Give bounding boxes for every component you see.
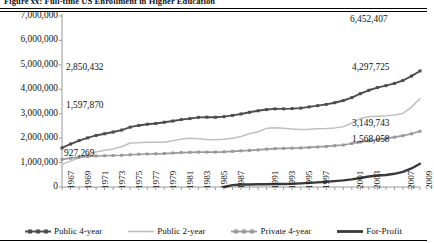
plot-area: [0, 12, 427, 190]
series-marker: [129, 126, 132, 129]
x-axis-tick-label: 2007: [406, 171, 416, 189]
series-marker: [137, 153, 140, 156]
series-marker: [154, 152, 157, 155]
x-axis-tick-label: 1981: [185, 171, 195, 189]
series-marker: [333, 144, 336, 147]
series-marker: [419, 69, 422, 72]
series-marker: [180, 118, 183, 121]
x-axis-tick-label: 1977: [151, 171, 161, 189]
legend-item-for-profit[interactable]: For-Profit: [337, 226, 402, 236]
series-marker: [342, 99, 345, 102]
series-marker: [188, 117, 191, 120]
series-marker: [231, 114, 234, 117]
series-marker: [393, 136, 396, 139]
legend-item-private-4-year[interactable]: Private 4-year: [231, 226, 311, 236]
legend-label: For-Profit: [366, 226, 402, 236]
series-marker: [359, 92, 362, 95]
series-marker: [137, 124, 140, 127]
line-chart-svg: [0, 12, 427, 190]
legend-item-public-2-year[interactable]: Public 2-year: [128, 226, 205, 236]
series-marker: [231, 150, 234, 153]
y-axis-tick-label: 1,000,000: [0, 157, 58, 167]
series-marker: [103, 154, 106, 157]
series-marker: [342, 143, 345, 146]
y-axis-tick-label: 6,000,000: [0, 34, 58, 44]
series-marker: [291, 107, 294, 110]
series-marker: [316, 104, 319, 107]
series-marker: [240, 149, 243, 152]
series-marker: [308, 105, 311, 108]
series-marker: [86, 136, 89, 139]
series-marker: [299, 107, 302, 110]
data-label-public-2-year: 927,269: [64, 148, 94, 158]
series-marker: [410, 132, 413, 135]
series-marker: [376, 86, 379, 89]
legend-label: Private 4-year: [260, 226, 311, 236]
series-marker: [95, 134, 98, 137]
series-marker: [393, 82, 396, 85]
series-marker: [61, 158, 64, 161]
x-axis-tick-label: 1993: [287, 171, 297, 189]
data-label-private-4-year: 3,149,743: [352, 118, 390, 128]
series-marker: [265, 108, 268, 111]
series-marker: [384, 84, 387, 87]
series-marker: [197, 151, 200, 154]
legend-item-public-4-year[interactable]: Public 4-year: [25, 226, 102, 236]
series-marker: [222, 150, 225, 153]
x-axis-tick-label: 1987: [236, 171, 246, 189]
x-axis-labels: 1967196919711973197519771979198119831985…: [0, 188, 427, 222]
legend-swatch: [25, 227, 51, 236]
series-marker: [282, 147, 285, 150]
series-marker: [163, 152, 166, 155]
series-marker: [265, 148, 268, 151]
series-marker: [103, 132, 106, 135]
series-marker: [180, 151, 183, 154]
x-axis-tick-label: 1967: [66, 171, 76, 189]
series-marker: [274, 107, 277, 110]
x-axis-tick-label: 1985: [219, 171, 229, 189]
legend-swatch: [231, 227, 257, 236]
series-marker: [171, 120, 174, 123]
series-marker: [325, 145, 328, 148]
series-marker: [401, 134, 404, 137]
x-axis-tick-label: 1997: [321, 171, 331, 189]
series-marker: [197, 116, 200, 119]
series-marker: [316, 145, 319, 148]
series-marker: [95, 154, 98, 157]
series-marker: [154, 122, 157, 125]
series-marker: [78, 139, 81, 142]
y-axis-tick-label: 5,000,000: [0, 59, 58, 69]
series-marker: [214, 116, 217, 119]
series-marker: [299, 146, 302, 149]
legend-swatch: [128, 227, 154, 236]
series-marker: [257, 109, 260, 112]
y-axis-tick-label: 4,000,000: [0, 83, 58, 93]
data-label-public-4-year: 6,452,407: [350, 14, 388, 24]
x-axis-tick-label: 2003: [372, 171, 382, 189]
series-marker: [333, 101, 336, 104]
series-marker: [257, 148, 260, 151]
y-axis-tick-label: 7,000,000: [0, 10, 58, 20]
chart-legend: Public 4-yearPublic 2-yearPrivate 4-year…: [0, 224, 427, 238]
data-label-public-4-year: 1,597,870: [66, 100, 104, 110]
x-axis-tick-label: 1991: [270, 171, 280, 189]
figure-bottom-rule: [0, 240, 427, 241]
series-marker: [401, 79, 404, 82]
series-marker: [205, 116, 208, 119]
legend-label: Public 2-year: [157, 226, 205, 236]
series-marker: [214, 151, 217, 154]
x-axis-tick-label: 2001: [355, 171, 365, 189]
series-marker: [112, 131, 115, 134]
data-label-public-4-year: 2,850,432: [66, 62, 104, 72]
x-axis-tick-label: 1971: [100, 171, 110, 189]
title-rule-upper: [0, 8, 427, 9]
series-marker: [350, 96, 353, 99]
y-axis-tick-label: 2,000,000: [0, 132, 58, 142]
series-marker: [171, 152, 174, 155]
series-marker: [69, 143, 72, 146]
series-marker: [291, 147, 294, 150]
series-marker: [367, 89, 370, 92]
data-label-for-profit: 1,568,058: [352, 134, 390, 144]
series-marker: [120, 154, 123, 157]
